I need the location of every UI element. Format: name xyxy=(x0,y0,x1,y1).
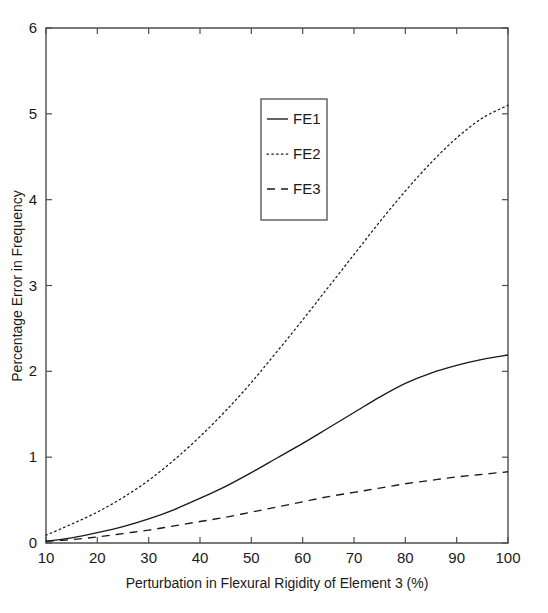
x-tick-label: 20 xyxy=(89,549,106,566)
chart-legend: FE1FE2FE3 xyxy=(261,99,327,220)
x-tick-label: 40 xyxy=(192,549,209,566)
legend-label-fe2: FE2 xyxy=(293,145,321,162)
x-tick-label: 30 xyxy=(140,549,157,566)
x-tick-label: 70 xyxy=(346,549,363,566)
y-axis-title: Percentage Error in Frequency xyxy=(9,190,25,381)
y-tick-label: 4 xyxy=(29,191,37,208)
x-tick-label: 10 xyxy=(38,549,55,566)
x-tick-label: 90 xyxy=(448,549,465,566)
line-chart: 102030405060708090100 0123456 FE1FE2FE3 … xyxy=(0,0,548,613)
legend-label-fe1: FE1 xyxy=(293,110,321,127)
y-tick-label: 1 xyxy=(29,448,37,465)
y-tick-label: 5 xyxy=(29,105,37,122)
legend-label-fe3: FE3 xyxy=(293,180,321,197)
x-tick-label: 100 xyxy=(495,549,520,566)
x-tick-label: 60 xyxy=(294,549,311,566)
y-tick-label: 2 xyxy=(29,362,37,379)
chart-background xyxy=(0,0,548,613)
x-tick-label: 80 xyxy=(397,549,414,566)
x-tick-label: 50 xyxy=(243,549,260,566)
y-tick-label: 0 xyxy=(29,534,37,551)
y-tick-label: 3 xyxy=(29,277,37,294)
chart-figure: 102030405060708090100 0123456 FE1FE2FE3 … xyxy=(0,0,548,613)
x-axis-title: Perturbation in Flexural Rigidity of Ele… xyxy=(126,575,429,591)
y-tick-label: 6 xyxy=(29,19,37,36)
